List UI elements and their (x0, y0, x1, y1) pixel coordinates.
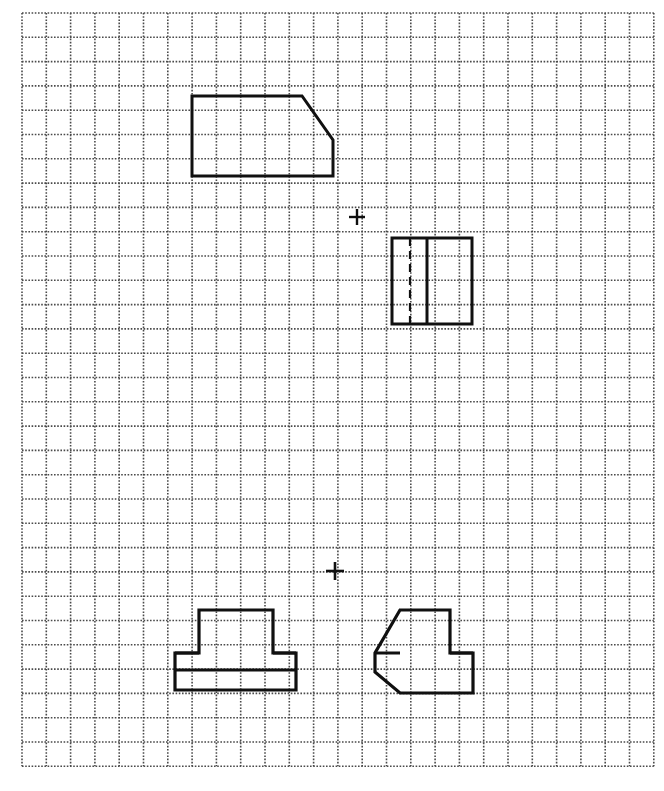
sheet-background (0, 0, 664, 791)
orthographic-drawing-canvas (0, 0, 664, 791)
sketch-sheet (0, 0, 664, 791)
